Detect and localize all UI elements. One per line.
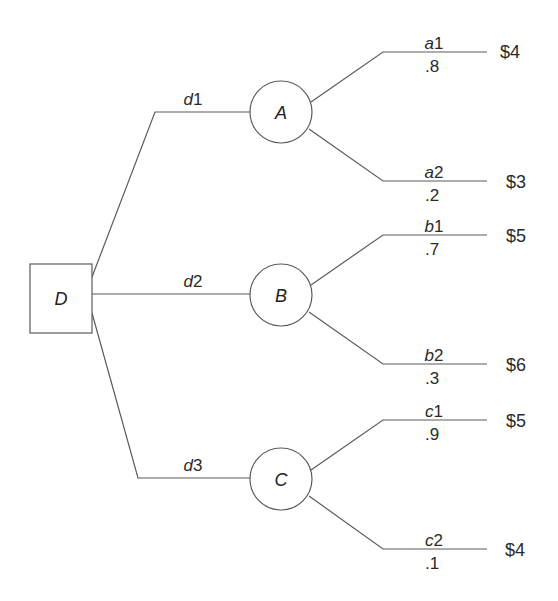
probability-a1: .8 [425, 57, 439, 76]
probability-a2: .2 [425, 186, 439, 205]
outcome-label-c2: c2 [425, 531, 443, 550]
outcome-label-a2: a2 [425, 163, 444, 182]
payoff-a2: $3 [506, 172, 526, 192]
branch-label-d1: d1 [184, 90, 203, 109]
probability-c2: .1 [425, 554, 439, 573]
edge-c2 [309, 496, 487, 549]
probability-b1: .7 [425, 240, 439, 259]
edge-d1 [92, 112, 250, 277]
edge-a2 [309, 129, 487, 181]
branch-label-d2: d2 [184, 272, 203, 291]
edge-c1 [311, 420, 487, 470]
branch-label-d3: d3 [184, 456, 203, 475]
payoff-c2: $4 [505, 540, 525, 560]
payoff-b1: $5 [506, 226, 526, 246]
chance-node-label: B [275, 286, 287, 306]
edge-a1 [311, 52, 487, 102]
outcome-label-b1: b1 [425, 217, 444, 236]
probability-b2: .3 [425, 369, 439, 388]
outcome-label-c1: c1 [425, 402, 443, 421]
payoff-b2: $6 [506, 355, 526, 375]
chance-node-label: C [275, 470, 289, 490]
decision-node-label: D [55, 289, 68, 309]
chance-node-label: A [274, 103, 287, 123]
edge-b2 [309, 312, 487, 364]
chance-node-b: B [250, 264, 312, 326]
chance-node-c: C [250, 448, 312, 510]
outcome-label-b2: b2 [425, 346, 444, 365]
chance-node-a: A [250, 81, 312, 143]
payoff-c1: $5 [506, 411, 526, 431]
outcome-label-a1: a1 [425, 34, 444, 53]
payoff-a1: $4 [500, 42, 520, 62]
probability-c1: .9 [425, 425, 439, 444]
decision-node-d: D [30, 264, 92, 333]
decision-tree-diagram: D A B C d1 d2 d3 a1 .8 $4 a2 .2 $3 b1 .7… [0, 0, 558, 601]
edge-d3 [92, 313, 250, 478]
edge-b1 [311, 235, 487, 285]
